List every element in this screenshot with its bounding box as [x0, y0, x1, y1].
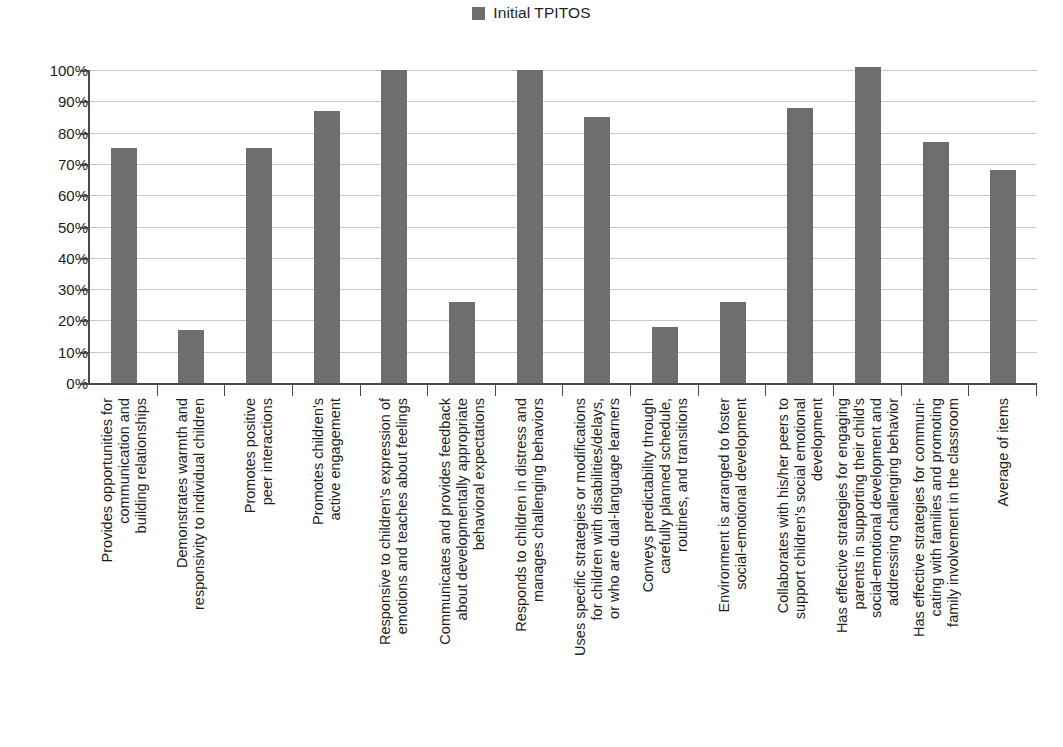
bar-slot: [293, 70, 361, 383]
bar[interactable]: [246, 148, 272, 383]
bar[interactable]: [584, 117, 610, 383]
y-axis-tick-label: 10%: [28, 344, 88, 359]
bar[interactable]: [178, 330, 204, 383]
x-axis-label-slot: Has effective strategies for communi-cat…: [902, 398, 970, 747]
y-axis-tick-mark: [80, 195, 88, 197]
x-axis-ticks: [90, 385, 1037, 396]
x-axis-category-label-line: addressing challenging behavior: [885, 398, 902, 633]
x-axis-category-label-line: Collaborates with his/her peers to: [775, 398, 792, 619]
legend-square-icon: [472, 7, 485, 20]
x-axis-category-label-line: family involvement in the classroom: [944, 398, 961, 637]
bar[interactable]: [517, 70, 543, 383]
y-axis-tick-label: 100%: [28, 63, 88, 78]
bar-slot: [766, 70, 834, 383]
x-axis-category-label-line: behavioral expectations: [471, 398, 488, 645]
bar[interactable]: [990, 170, 1016, 383]
x-axis-tick-mark: [293, 385, 361, 396]
x-axis-category-label-line: Has effective strategies for engaging: [834, 398, 851, 633]
y-axis-tick-label: 40%: [28, 250, 88, 265]
y-axis-tick-mark: [80, 352, 88, 354]
y-axis-tick-label: 90%: [28, 94, 88, 109]
x-axis-category-label-line: Promotes positive: [242, 398, 259, 513]
bar-slot: [496, 70, 564, 383]
bar-slot: [834, 70, 902, 383]
bar-slot: [699, 70, 767, 383]
x-axis-category-label-line: development: [809, 398, 826, 619]
x-axis-category-label-line: about developmentally appropriate: [454, 398, 471, 645]
x-axis-tick-mark: [225, 385, 293, 396]
x-axis-category-label-line: for children with disabilities/delays,: [589, 398, 606, 656]
x-axis-tick-mark: [699, 385, 767, 396]
bar[interactable]: [652, 327, 678, 383]
bar[interactable]: [449, 302, 475, 383]
bar-series-initial-tpitos: [90, 70, 1037, 383]
bar-slot: [428, 70, 496, 383]
x-axis-category-label-line: social-emotional development and: [868, 398, 885, 633]
y-axis-tick-mark: [80, 133, 88, 135]
bar[interactable]: [720, 302, 746, 383]
x-axis-category-label: Communicates and provides feedbackabout …: [437, 398, 488, 645]
y-axis-tick-label: 50%: [28, 219, 88, 234]
x-axis-label-slot: Collaborates with his/her peers tosuppor…: [766, 398, 834, 747]
x-axis-category-label: Responds to children in distress andmana…: [513, 398, 547, 632]
x-axis-category-label-line: Average of items: [995, 398, 1012, 507]
x-axis-category-label: Provides opportunities forcommunication …: [98, 398, 149, 562]
x-axis-category-label: Has effective strategies for communi-cat…: [910, 398, 961, 637]
bar-slot: [90, 70, 158, 383]
x-axis-category-label-line: Responsive to children's expression of: [377, 398, 394, 645]
x-axis-tick-mark: [902, 385, 970, 396]
y-axis-tick-label: 20%: [28, 313, 88, 328]
x-axis-label-slot: Provides opportunities forcommunication …: [90, 398, 158, 747]
x-axis-category-label-line: Communicates and provides feedback: [437, 398, 454, 645]
bar-slot: [563, 70, 631, 383]
bar[interactable]: [923, 142, 949, 383]
x-axis-category-label-line: communication and: [115, 398, 132, 562]
x-axis-tick-mark: [969, 385, 1037, 396]
x-axis-category-label-line: emotions and teaches about feelings: [394, 398, 411, 645]
x-axis-tick-mark: [834, 385, 902, 396]
chart-legend: Initial TPITOS: [0, 0, 1063, 26]
bar-slot: [631, 70, 699, 383]
x-axis-category-label-line: support children's social emotional: [792, 398, 809, 619]
x-axis-category-label-line: building relationships: [132, 398, 149, 562]
x-axis-category-label-line: active engagement: [327, 398, 344, 525]
bar-slot: [361, 70, 429, 383]
bar[interactable]: [855, 67, 881, 383]
x-axis-category-label-line: Provides opportunities for: [98, 398, 115, 562]
x-axis-category-label: Promotes children'sactive engagement: [310, 398, 344, 525]
x-axis-tick-mark: [158, 385, 226, 396]
x-axis-label-slot: Responsive to children's expression ofem…: [361, 398, 429, 747]
y-axis-tick-mark: [80, 101, 88, 103]
x-axis-category-label-line: manages challenging behaviors: [530, 398, 547, 632]
x-axis-category-label-line: Promotes children's: [310, 398, 327, 525]
x-axis-label-slot: Conveys predictability throughcarefully …: [631, 398, 699, 747]
x-axis-category-label-line: or who are dual-language learners: [606, 398, 623, 656]
x-axis-category-label: Environment is arranged to fostersocial-…: [716, 398, 750, 612]
bar[interactable]: [314, 111, 340, 383]
x-axis-label-slot: Uses specific strategies or modification…: [563, 398, 631, 747]
y-axis-tick-mark: [80, 164, 88, 166]
x-axis-category-label: Has effective strategies for engagingpar…: [834, 398, 902, 633]
x-axis-category-label-line: parents in supporting their child's: [851, 398, 868, 633]
x-axis-category-label: Promotes positivepeer interactions: [242, 398, 276, 513]
bar[interactable]: [381, 70, 407, 383]
x-axis-labels: Provides opportunities forcommunication …: [90, 398, 1037, 747]
bar[interactable]: [787, 108, 813, 383]
x-axis-label-slot: Responds to children in distress andmana…: [496, 398, 564, 747]
legend-entry-label: Initial TPITOS: [493, 4, 590, 22]
x-axis-category-label-line: responsivity to individual children: [191, 398, 208, 610]
x-axis-label-slot: Promotes children'sactive engagement: [293, 398, 361, 747]
y-axis-tick-mark: [80, 70, 88, 72]
y-axis-tick-label: 80%: [28, 125, 88, 140]
bar[interactable]: [111, 148, 137, 383]
y-axis: 0%10%20%30%40%50%60%70%80%90%100%: [0, 0, 88, 747]
x-axis-category-label-line: Conveys predictability through: [639, 398, 656, 592]
y-axis-tick-label: 0%: [28, 376, 88, 391]
x-axis-tick-mark: [428, 385, 496, 396]
x-axis-category-label-line: carefully planned schedule,: [656, 398, 673, 592]
x-axis-label-slot: Has effective strategies for engagingpar…: [834, 398, 902, 747]
x-axis-category-label-line: social-emotional development: [733, 398, 750, 612]
y-axis-tick-mark: [80, 227, 88, 229]
x-axis-tick-mark: [361, 385, 429, 396]
x-axis-label-slot: Promotes positivepeer interactions: [225, 398, 293, 747]
